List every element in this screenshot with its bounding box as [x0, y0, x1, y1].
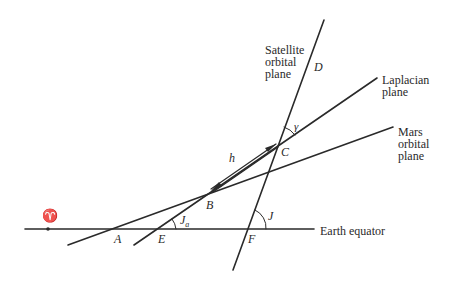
orbital-planes-diagram: Satellite orbital plane Laplacian plane …	[0, 0, 450, 286]
vernal-equinox-point	[46, 227, 50, 231]
earth-equator-text: Earth equator	[320, 225, 385, 237]
point-e-label: E	[158, 233, 165, 245]
laplacian-label-line2: plane	[382, 86, 429, 98]
point-f-label: F	[248, 233, 255, 245]
satellite-label-line3: plane	[265, 68, 304, 80]
j-angle-arc	[255, 210, 266, 229]
point-b-label: B	[206, 199, 213, 211]
point-a-label: A	[114, 233, 121, 245]
ja-angle-arc	[172, 219, 176, 229]
h-arrow-line-2	[213, 147, 278, 192]
h-distance-label: h	[229, 152, 235, 164]
mars-plane-label: Mars orbital plane	[398, 126, 429, 162]
vernal-equinox-icon: ♈	[42, 210, 58, 222]
mars-label-line3: plane	[398, 150, 429, 162]
diagram-lines	[0, 0, 450, 286]
point-c-label: C	[281, 146, 289, 158]
h-arrow-line-1	[211, 144, 276, 189]
ja-angle-label: Ja	[180, 214, 189, 231]
laplacian-plane-line	[134, 78, 377, 245]
j-angle-label: J	[268, 210, 273, 222]
point-d-label: D	[314, 61, 323, 73]
laplacian-plane-label: Laplacian plane	[382, 74, 429, 98]
satellite-plane-label: Satellite orbital plane	[265, 44, 304, 80]
gamma-angle-label: γ	[294, 120, 298, 132]
ja-subscript: a	[185, 220, 189, 229]
